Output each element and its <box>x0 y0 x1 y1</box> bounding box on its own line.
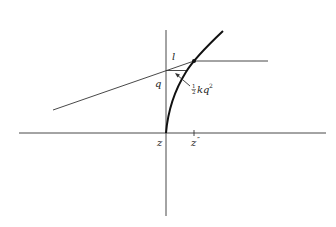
label-q: q <box>155 78 161 89</box>
label-kq: kq <box>197 84 209 95</box>
diagram-canvas: l q 1 2 kq 2 z z ″ <box>0 0 336 227</box>
label-z-double-prime: z <box>190 137 197 148</box>
label-z-double-prime-mark: ″ <box>197 135 200 144</box>
label-half-den: 2 <box>192 89 196 95</box>
intersection-point <box>192 59 196 63</box>
label-l: l <box>172 51 175 62</box>
label-z: z <box>156 137 163 148</box>
label-kq-exponent: 2 <box>209 82 213 89</box>
bold-curve <box>166 31 223 133</box>
